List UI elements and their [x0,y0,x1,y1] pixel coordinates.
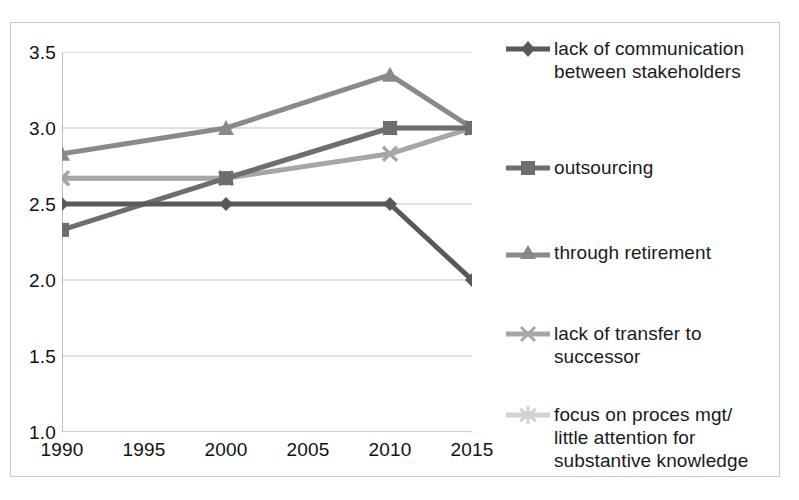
chart-legend: lack of communicationbetween stakeholder… [505,30,773,460]
series-line [62,75,472,154]
plot-area [62,52,472,432]
asterisk-marker-icon [505,404,551,426]
triangle-marker-icon [505,242,551,264]
x-tick-label: 2005 [286,440,329,459]
y-tick-label: 3.0 [10,119,56,138]
series-line [62,204,472,280]
cross-x-marker-icon [505,323,551,345]
y-tick-label: 1.5 [10,347,56,366]
series-line [62,128,472,178]
legend-label: focus on proces mgt/little attention for… [554,403,748,472]
square-marker-icon [465,121,472,135]
legend-label: lack of transfer tosuccessor [554,322,702,368]
diamond-marker-icon [62,197,69,211]
plot-svg [62,52,472,432]
legend-label: lack of communicationbetween stakeholder… [554,37,744,83]
diamond-marker-icon [505,38,551,60]
x-axis-tick-labels: 1990 1995 2000 2005 2010 2015 [0,440,530,470]
square-marker-icon [219,171,233,185]
y-tick-label: 2.0 [10,271,56,290]
x-tick-label: 1995 [122,440,165,459]
square-marker-icon [383,121,397,135]
legend-item-lack-of-transfer-to-successor[interactable]: lack of transfer tosuccessor [505,322,773,368]
series-layer [62,67,472,287]
y-axis-tick-labels: 3.5 3.0 2.5 2.0 1.5 1.0 [4,0,56,500]
diamond-marker-icon [219,197,233,211]
legend-item-focus-on-proces-mgt[interactable]: focus on proces mgt/little attention for… [505,403,773,472]
y-tick-label: 2.5 [10,195,56,214]
legend-item-through-retirement[interactable]: through retirement [505,241,773,264]
line-chart: 3.5 3.0 2.5 2.0 1.5 1.0 [0,0,799,500]
axis-lines [62,52,472,432]
x-tick-label: 2010 [368,440,411,459]
x-tick-label: 1990 [40,440,83,459]
square-marker-icon [62,223,69,237]
square-marker-icon [505,157,551,179]
y-tick-label: 3.5 [10,43,56,62]
legend-item-lack-of-communication[interactable]: lack of communicationbetween stakeholder… [505,37,773,83]
legend-label: through retirement [554,241,711,264]
legend-label: outsourcing [554,156,653,179]
legend-item-outsourcing[interactable]: outsourcing [505,156,773,179]
x-tick-label: 2015 [450,440,493,459]
x-tick-label: 2000 [204,440,247,459]
